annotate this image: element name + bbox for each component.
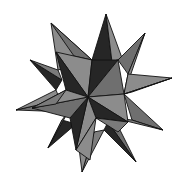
figure-caption [0, 180, 182, 189]
polyhedron-figure [0, 0, 182, 178]
stellated-dodecahedron-image [0, 0, 182, 178]
